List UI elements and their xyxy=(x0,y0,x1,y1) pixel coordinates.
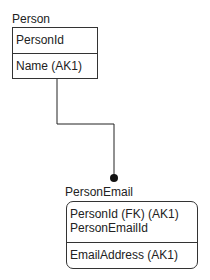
key-attribute: PersonId (FK) (AK1) xyxy=(70,207,194,221)
attribute-section: Name (AK1) xyxy=(13,53,97,78)
key-attribute: PersonId xyxy=(16,33,94,47)
attribute: Name (AK1) xyxy=(16,59,94,73)
key-attribute: PersonEmailId xyxy=(70,221,194,235)
key-section: PersonId xyxy=(13,28,97,53)
entity-person-email[interactable]: PersonId (FK) (AK1) PersonEmailId EmailA… xyxy=(66,201,198,269)
attribute: EmailAddress (AK1) xyxy=(70,248,194,262)
many-end-dot-icon xyxy=(110,174,118,182)
attribute-section: EmailAddress (AK1) xyxy=(67,242,197,268)
entity-person[interactable]: PersonId Name (AK1) xyxy=(12,27,98,79)
key-section: PersonId (FK) (AK1) PersonEmailId xyxy=(67,202,197,242)
entity-title-person-email: PersonEmail xyxy=(65,186,133,198)
entity-title-person: Person xyxy=(12,13,50,25)
